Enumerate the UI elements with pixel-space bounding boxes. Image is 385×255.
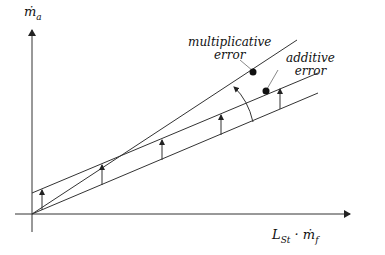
additive-leader-line (267, 70, 278, 89)
true-line (32, 93, 318, 214)
x-axis-label: LSt · ṁf (272, 228, 319, 245)
multiplicative-error-label: multiplicative error (188, 36, 271, 62)
additive-error-label: additive error (286, 52, 335, 78)
additive-error-line (32, 73, 318, 193)
y-axis-label: ṁa (24, 5, 42, 22)
multiplicative-error-line (32, 40, 297, 214)
multiplicative-error-dot (250, 69, 257, 76)
additive-error-dot (263, 88, 270, 95)
